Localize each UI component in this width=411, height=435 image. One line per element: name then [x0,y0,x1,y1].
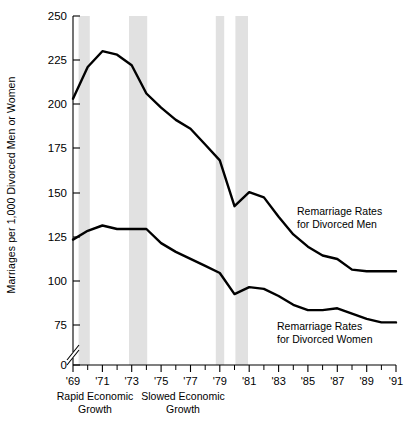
x-tick-label-1985: '85 [301,375,315,387]
series-line-divorced-men [73,51,396,271]
annotation-rapid-growth-line2: Growth [78,403,112,415]
x-tick-label-1969: '69 [66,375,80,387]
shaded-bands-group [79,16,248,365]
y-tick-label-200: 200 [48,98,67,110]
x-tick-label-1977: '77 [183,375,197,387]
x-tick-label-1981: '81 [242,375,256,387]
y-tick-label-100: 100 [48,275,67,287]
series-label-women: Remarriage Rates for Divorced Women [277,320,373,345]
chart-canvas: 250 225 200 175 150 125 100 75 0 [0,0,411,435]
series-label-women-line2: for Divorced Women [277,333,373,345]
series-label-men: Remarriage Rates for Divorced Men [297,205,382,230]
x-tick-label-1983: '83 [271,375,285,387]
x-tick-label-1991: '91 [389,375,403,387]
x-tick-label-1989: '89 [360,375,374,387]
y-tick-label-225: 225 [48,54,67,66]
annotation-slowed-growth: Slowed Economic Growth [141,390,224,415]
series-label-men-line1: Remarriage Rates [297,205,382,217]
x-tick-label-1987: '87 [330,375,344,387]
y-tick-label-175: 175 [48,142,67,154]
series-line-divorced-women [73,226,396,323]
recession-band-2 [129,16,147,365]
y-tick-label-75: 75 [54,319,67,331]
annotation-rapid-growth-line1: Rapid Economic [57,390,133,402]
series-label-women-line1: Remarriage Rates [277,320,362,332]
annotation-slowed-growth-line2: Growth [166,403,200,415]
annotation-slowed-growth-line1: Slowed Economic [141,390,224,402]
y-tick-label-150: 150 [48,187,67,199]
chart-figure: Marriages per 1,000 Divorced Men or Wome… [0,0,411,435]
series-label-men-line2: for Divorced Men [297,218,377,230]
x-tick-label-1975: '75 [154,375,168,387]
annotation-rapid-growth: Rapid Economic Growth [57,390,133,415]
x-tick-label-1979: '79 [213,375,227,387]
y-tick-label-125: 125 [48,231,67,243]
y-tick-label-250: 250 [48,10,67,22]
recession-band-3 [216,16,224,365]
x-tick-label-1973: '73 [125,375,139,387]
recession-band-4 [235,16,248,365]
x-tick-label-1971: '71 [95,375,109,387]
y-tick-label-0: 0 [61,359,67,371]
data-lines-group [73,51,396,322]
